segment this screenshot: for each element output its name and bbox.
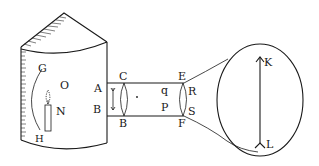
label-R: R (188, 85, 197, 98)
label-H: H (35, 133, 44, 144)
projection-ray-lower (184, 116, 258, 152)
roof-hatching (24, 17, 66, 46)
label-N: N (56, 105, 66, 118)
label-q: q (161, 84, 168, 97)
label-K: K (264, 56, 273, 69)
arrow-tail-L (255, 143, 265, 148)
label-O: O (60, 79, 69, 92)
projection-ray-upper (184, 59, 228, 83)
label-C: C (119, 70, 127, 83)
lens-tube (107, 83, 184, 116)
label-B-lens: B (119, 117, 127, 130)
label-A: A (93, 82, 103, 95)
concave-mirror-GH (31, 69, 42, 130)
label-S: S (188, 105, 196, 118)
label-P: P (161, 101, 169, 114)
label-F: F (178, 117, 186, 130)
candle-body (45, 105, 51, 131)
projection-diagram: G O N H A B C B q P E F R S K L (0, 0, 319, 166)
chamber-top-edge (21, 42, 107, 53)
candle-N (45, 90, 51, 131)
label-E: E (178, 70, 186, 83)
side-hatching (21, 52, 26, 136)
label-B-aperture: B (93, 103, 101, 116)
chamber-bottom-edge (21, 140, 107, 149)
projected-arrow-KL (255, 57, 265, 148)
focal-point-dot (136, 96, 138, 98)
label-G: G (38, 62, 47, 75)
chamber-roof (21, 13, 107, 47)
lens-CB (121, 83, 128, 116)
label-L: L (266, 138, 274, 151)
lens-EF (180, 83, 187, 116)
object-arrow (111, 88, 115, 110)
